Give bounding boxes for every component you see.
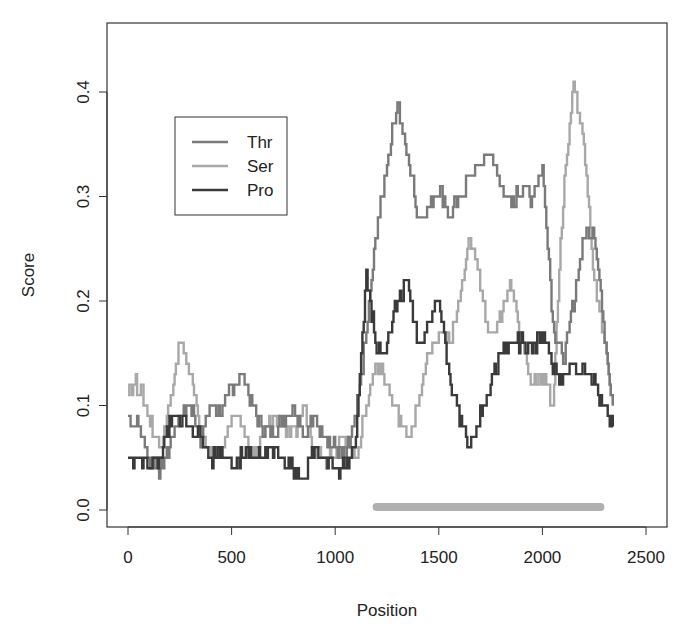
y-tick-label: 0.0 <box>74 498 93 522</box>
plot-frame <box>107 23 667 527</box>
y-axis-title: Score <box>19 253 38 297</box>
x-tick-label: 1500 <box>420 548 458 567</box>
x-ticks: 05001000150020002500 <box>123 527 665 567</box>
y-ticks: 0.00.10.20.30.4 <box>74 80 107 522</box>
y-tick-label: 0.1 <box>74 394 93 418</box>
legend-label-pro: Pro <box>247 181 273 200</box>
x-axis: 05001000150020002500 Position <box>123 527 665 620</box>
x-tick-label: 2000 <box>523 548 561 567</box>
y-tick-label: 0.3 <box>74 185 93 209</box>
y-tick-label: 0.2 <box>74 289 93 313</box>
x-axis-title: Position <box>357 601 417 620</box>
x-tick-label: 2500 <box>627 548 665 567</box>
y-tick-label: 0.4 <box>74 80 93 104</box>
y-axis: 0.00.10.20.30.4 Score <box>19 80 107 522</box>
legend: Thr Ser Pro <box>175 117 287 215</box>
x-tick-label: 500 <box>217 548 245 567</box>
x-tick-label: 1000 <box>316 548 354 567</box>
x-tick-label: 0 <box>123 548 132 567</box>
legend-label-thr: Thr <box>247 133 273 152</box>
score-line-chart: 0.00.10.20.30.4 Score 050010001500200025… <box>0 0 685 630</box>
legend-label-ser: Ser <box>247 157 274 176</box>
